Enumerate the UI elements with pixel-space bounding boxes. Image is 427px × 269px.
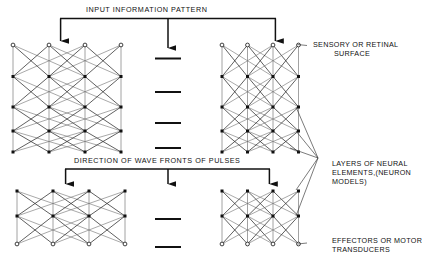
lattice-node-open <box>123 242 127 246</box>
lattice-node-solid <box>120 75 123 78</box>
label-effectors-line2: TRANSDUCERS <box>332 245 390 254</box>
lattice-node-solid <box>221 151 224 154</box>
lattice-node-solid <box>297 106 300 109</box>
lattice-node-open <box>271 43 275 47</box>
lattice-node-solid <box>221 130 224 133</box>
lattice-node-solid <box>246 151 249 154</box>
lattice-node-solid <box>84 106 87 109</box>
label-effectors-line1: EFFECTORS OR MOTOR <box>332 236 422 245</box>
lattice-node-open <box>220 43 224 47</box>
lattice-node-solid <box>124 215 127 218</box>
lattice-node-open <box>11 43 15 47</box>
lattice-node-solid <box>16 190 19 193</box>
leader-layers-e <box>296 158 318 216</box>
lattice-node-solid <box>52 190 55 193</box>
lattice-node-solid <box>246 215 249 218</box>
lattice-node-solid <box>84 130 87 133</box>
lattice-node-solid <box>16 215 19 218</box>
lattice-node-open <box>246 43 250 47</box>
lattice-node-open <box>83 43 87 47</box>
lattice-node-solid <box>297 215 300 218</box>
top-bracket-group <box>60 19 276 49</box>
neural-network-diagram: INPUT INFORMATION PATTERN DIRECTION OF W… <box>0 0 427 269</box>
lattice-node-solid <box>246 75 249 78</box>
lattice-node-solid <box>48 151 51 154</box>
lattice-node-solid <box>84 151 87 154</box>
lattice-node-solid <box>120 151 123 154</box>
lattice-node-open <box>271 242 275 246</box>
lattice-node-solid <box>48 106 51 109</box>
lattice-node-solid <box>12 75 15 78</box>
lattice-node-solid <box>12 130 15 133</box>
lattice-node-solid <box>84 75 87 78</box>
label-layers-line1: LAYERS OF NEURAL <box>332 159 408 168</box>
lattice-node-solid <box>297 190 300 193</box>
lattice-node-open <box>47 43 51 47</box>
lattice-node-solid <box>221 215 224 218</box>
lattice-node-solid <box>272 151 275 154</box>
lattice-node-solid <box>88 190 91 193</box>
lattice-node-open <box>15 242 19 246</box>
ellipsis-dashes-lower <box>155 219 181 247</box>
lattice-node-solid <box>246 130 249 133</box>
mid-bracket-group <box>65 169 270 184</box>
network-lower-left <box>15 190 127 246</box>
network-lower-right <box>220 190 300 246</box>
leader-layers-d <box>296 158 318 190</box>
label-layers-line3: MODELS) <box>332 177 367 186</box>
lattice-node-solid <box>48 130 51 133</box>
lattice-node-open <box>87 242 91 246</box>
title-input-pattern: INPUT INFORMATION PATTERN <box>86 5 207 14</box>
lattice-node-solid <box>297 75 300 78</box>
lattice-node-solid <box>272 75 275 78</box>
lattice-node-solid <box>124 190 127 193</box>
lattice-node-solid <box>221 106 224 109</box>
lattice-node-open <box>119 43 123 47</box>
lattice-node-solid <box>221 75 224 78</box>
network-lattices <box>11 43 300 246</box>
lattice-node-solid <box>246 106 249 109</box>
lattice-node-solid <box>88 215 91 218</box>
lattice-node-solid <box>272 106 275 109</box>
lattice-node-solid <box>272 215 275 218</box>
lattice-node-solid <box>272 190 275 193</box>
lattice-node-solid <box>120 130 123 133</box>
network-upper-right <box>220 43 300 153</box>
figure-canvas: INPUT INFORMATION PATTERN DIRECTION OF W… <box>0 0 427 269</box>
lattice-node-solid <box>120 106 123 109</box>
title-wave-fronts: DIRECTION OF WAVE FRONTS OF PULSES <box>74 156 240 165</box>
lattice-node-solid <box>297 130 300 133</box>
label-sensory-line1: SENSORY OR RETINAL <box>313 40 398 49</box>
lattice-node-open <box>220 242 224 246</box>
lattice-node-open <box>51 242 55 246</box>
label-layers-line2: ELEMENTS,(NEURON <box>332 168 411 177</box>
lattice-node-solid <box>12 151 15 154</box>
lattice-node-solid <box>246 190 249 193</box>
lattice-node-solid <box>272 130 275 133</box>
network-upper-left <box>11 43 123 153</box>
lattice-node-solid <box>221 190 224 193</box>
lattice-node-solid <box>52 215 55 218</box>
label-sensory-line2: SURFACE <box>334 49 370 58</box>
lattice-node-solid <box>48 75 51 78</box>
lattice-node-open <box>246 242 250 246</box>
ellipsis-dashes-upper <box>155 59 181 149</box>
lattice-node-solid <box>12 106 15 109</box>
